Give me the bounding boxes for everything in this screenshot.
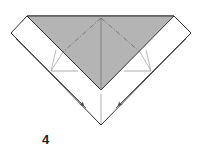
- origami-diagram: [0, 0, 207, 156]
- step-number: 4: [42, 132, 49, 147]
